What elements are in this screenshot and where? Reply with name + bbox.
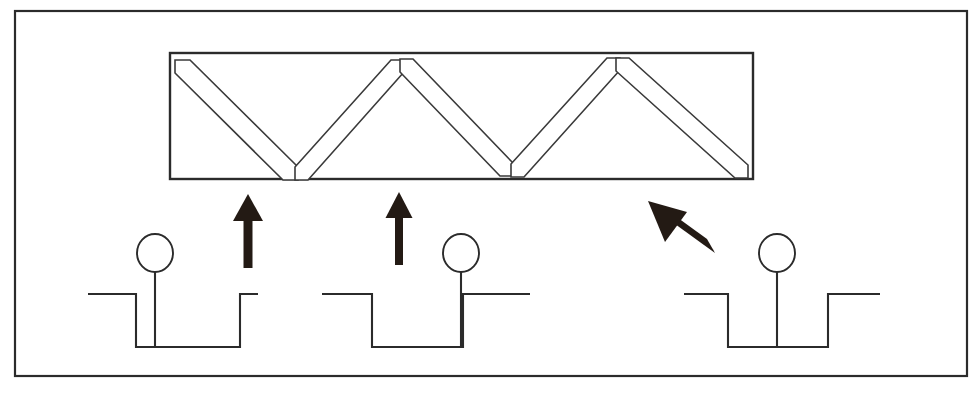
well-left-head-circle [137, 234, 173, 272]
well-left [88, 234, 258, 347]
arrow-middle-up-shaft [395, 216, 403, 265]
technical-diagram [0, 0, 978, 404]
arrow-right-diagonal [648, 201, 715, 253]
truss-strut-3 [400, 59, 513, 176]
arrow-left-up-shaft [244, 218, 253, 268]
well-right-head-circle [759, 234, 795, 272]
well-right-profile [684, 294, 880, 347]
arrow-left-up [233, 194, 263, 268]
well-middle [322, 234, 530, 347]
truss-strut-4 [511, 58, 620, 177]
figure-border [15, 11, 967, 376]
truss-strut-1 [175, 60, 298, 180]
well-middle-profile [322, 294, 530, 347]
truss-strut-2 [295, 60, 404, 180]
well-middle-head-circle [443, 234, 479, 272]
arrow-middle-up-head [386, 192, 413, 218]
arrow-left-up-head [233, 194, 263, 221]
well-left-profile [88, 294, 258, 347]
truss-strut-5 [616, 58, 748, 178]
truss-strut-group [175, 58, 748, 180]
arrow-middle-up [386, 192, 413, 265]
figure-canvas [0, 0, 978, 404]
